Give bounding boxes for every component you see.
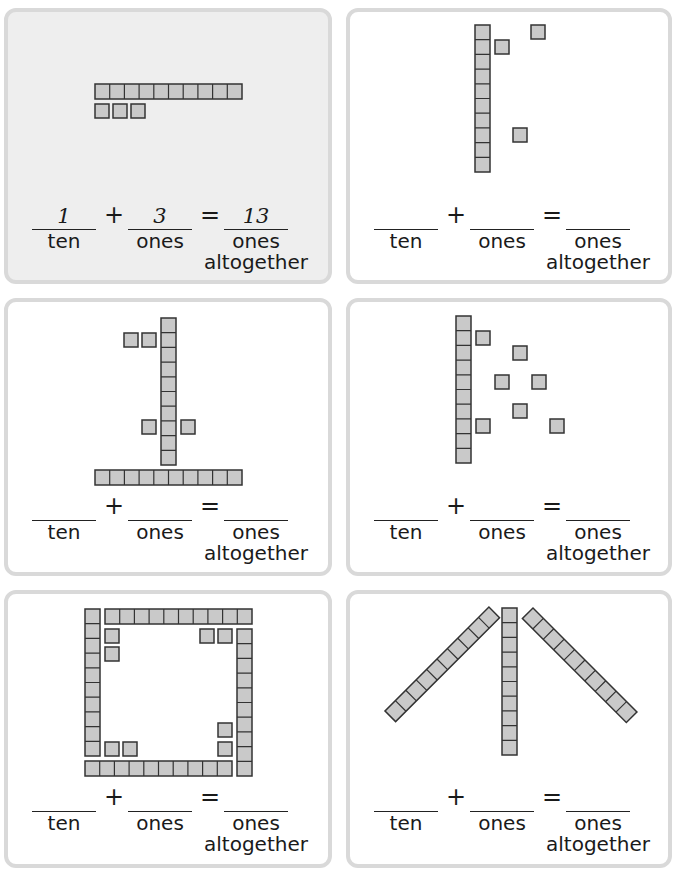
ten-label: ten bbox=[361, 521, 451, 543]
ones-label: ones bbox=[115, 812, 205, 834]
ones-answer[interactable] bbox=[470, 492, 534, 521]
altogether-label: altogether bbox=[538, 251, 658, 273]
total-answer[interactable] bbox=[224, 783, 288, 812]
equation-d: + = ten ones ones altogether bbox=[374, 492, 634, 562]
ones-answer[interactable] bbox=[128, 783, 192, 812]
equation-a: 1 + 3 = 13 ten ones ones altogether bbox=[32, 201, 292, 271]
ones-total-label: ones bbox=[211, 812, 301, 834]
equals-sign: = bbox=[542, 203, 562, 227]
total-answer[interactable] bbox=[566, 201, 630, 230]
equals-sign: = bbox=[200, 785, 220, 809]
plus-sign: + bbox=[104, 203, 124, 227]
ten-label: ten bbox=[19, 521, 109, 543]
equation-b: + = ten ones ones altogether bbox=[374, 201, 634, 271]
plus-sign: + bbox=[446, 494, 466, 518]
plus-sign: + bbox=[104, 785, 124, 809]
ones-total-label: ones bbox=[553, 812, 643, 834]
ten-label: ten bbox=[361, 230, 451, 252]
ones-total-label: ones bbox=[211, 230, 301, 252]
altogether-label: altogether bbox=[196, 542, 316, 564]
equation-c: + = ten ones ones altogether bbox=[32, 492, 292, 562]
ones-label: ones bbox=[115, 521, 205, 543]
altogether-label: altogether bbox=[196, 833, 316, 855]
ones-label: ones bbox=[457, 230, 547, 252]
ones-answer[interactable] bbox=[128, 492, 192, 521]
tens-answer: 1 bbox=[32, 201, 96, 230]
total-answer[interactable] bbox=[566, 492, 630, 521]
plus-sign: + bbox=[446, 785, 466, 809]
total-answer[interactable] bbox=[566, 783, 630, 812]
ones-label: ones bbox=[457, 521, 547, 543]
tens-answer[interactable] bbox=[374, 492, 438, 521]
ones-answer: 3 bbox=[128, 201, 192, 230]
ones-total-label: ones bbox=[553, 521, 643, 543]
ones-total-label: ones bbox=[211, 521, 301, 543]
ones-answer[interactable] bbox=[470, 201, 534, 230]
tens-answer[interactable] bbox=[32, 492, 96, 521]
total-answer[interactable] bbox=[224, 492, 288, 521]
tens-answer[interactable] bbox=[374, 201, 438, 230]
ten-label: ten bbox=[19, 812, 109, 834]
ones-label: ones bbox=[457, 812, 547, 834]
ones-answer[interactable] bbox=[470, 783, 534, 812]
equals-sign: = bbox=[200, 203, 220, 227]
ones-label: ones bbox=[115, 230, 205, 252]
plus-sign: + bbox=[446, 203, 466, 227]
tens-answer[interactable] bbox=[32, 783, 96, 812]
altogether-label: altogether bbox=[196, 251, 316, 273]
equals-sign: = bbox=[200, 494, 220, 518]
altogether-label: altogether bbox=[538, 542, 658, 564]
equation-f: + = ten ones ones altogether bbox=[374, 783, 634, 853]
altogether-label: altogether bbox=[538, 833, 658, 855]
ten-label: ten bbox=[361, 812, 451, 834]
plus-sign: + bbox=[104, 494, 124, 518]
total-answer: 13 bbox=[224, 201, 288, 230]
equals-sign: = bbox=[542, 785, 562, 809]
equals-sign: = bbox=[542, 494, 562, 518]
ones-total-label: ones bbox=[553, 230, 643, 252]
tens-answer[interactable] bbox=[374, 783, 438, 812]
equation-e: + = ten ones ones altogether bbox=[32, 783, 292, 853]
ten-label: ten bbox=[19, 230, 109, 252]
